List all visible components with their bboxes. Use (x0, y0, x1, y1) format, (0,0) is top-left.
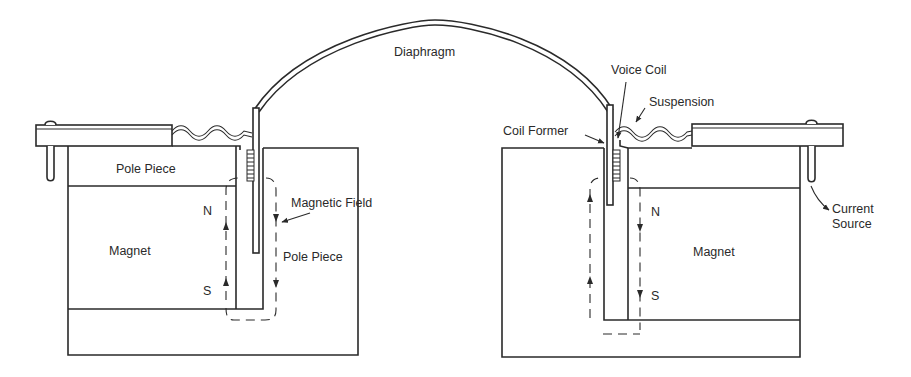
right-suspension (615, 127, 692, 138)
label-magnet-left: Magnet (109, 244, 151, 258)
label-current-source-1: Current (832, 202, 874, 216)
current-source-pointer (811, 186, 829, 210)
magnetic-field-pointer (282, 213, 310, 222)
diaphragm (254, 20, 613, 112)
label-north-left: N (203, 204, 212, 218)
left-field-line (226, 178, 240, 300)
left-assembly (36, 108, 358, 355)
label-pole-piece-top: Pole Piece (116, 162, 176, 176)
left-terminal-pin (47, 146, 54, 181)
right-terminal-pin (808, 146, 815, 182)
coil-former-pointer (585, 135, 604, 143)
right-terminal-knob (806, 120, 817, 124)
label-south-right: S (651, 289, 659, 303)
right-voice-coil (613, 150, 620, 181)
label-suspension: Suspension (649, 95, 714, 109)
label-magnet-right: Magnet (693, 245, 735, 259)
label-voice-coil: Voice Coil (611, 63, 667, 77)
left-voice-coil (247, 150, 254, 181)
right-coil-former (607, 105, 613, 205)
left-top-plate (36, 125, 172, 146)
right-assembly (502, 105, 843, 357)
label-north-right: N (651, 205, 660, 219)
right-base (502, 146, 800, 357)
suspension-pointer (636, 108, 645, 122)
label-south-left: S (203, 284, 211, 298)
right-top-plate (692, 124, 843, 146)
label-pole-piece-center: Pole Piece (283, 250, 343, 264)
voice-coil-pointer (618, 82, 626, 138)
label-current-source-2: Source (832, 217, 872, 231)
left-terminal-knob (45, 121, 56, 125)
label-coil-former: Coil Former (503, 124, 568, 138)
label-diaphragm: Diaphragm (394, 45, 455, 59)
loudspeaker-diagram: Diaphragm Pole Piece (0, 0, 911, 377)
label-magnetic-field: Magnetic Field (291, 196, 372, 210)
